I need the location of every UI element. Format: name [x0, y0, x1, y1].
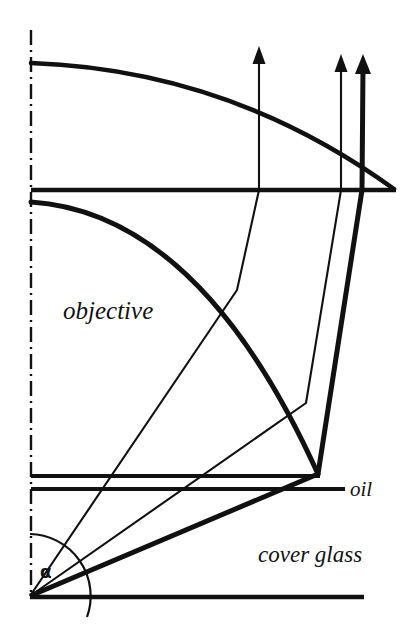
- marginal-ray: [30, 66, 363, 596]
- label-oil: oil: [350, 477, 372, 501]
- label-objective: objective: [63, 297, 153, 324]
- optical-ray-diagram-svg: objective oil cover glass α: [0, 0, 404, 628]
- arrow-ray-2-head: [335, 54, 348, 72]
- inner-ray-2: [30, 64, 341, 596]
- lower-lens-surface: [31, 202, 318, 474]
- arrow-ray-1-head: [253, 46, 266, 64]
- label-aperture-angle-alpha: α: [40, 562, 52, 582]
- upper-lens-surface: [31, 63, 394, 189]
- label-cover-glass: cover glass: [258, 542, 362, 567]
- ray-diagram-canvas: objective oil cover glass α: [0, 0, 404, 628]
- arrow-marginal-ray-head: [355, 54, 371, 74]
